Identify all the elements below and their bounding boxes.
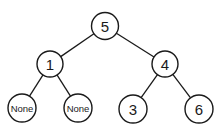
node-6: 6 bbox=[185, 95, 213, 123]
node-none-right: None bbox=[64, 94, 92, 122]
edge-1-none-left bbox=[30, 75, 44, 96]
edge-5-1 bbox=[61, 34, 94, 57]
node-label: 1 bbox=[46, 56, 54, 73]
node-none-left: None bbox=[8, 94, 36, 122]
binary-tree-diagram: 5 1 4 None None 3 6 bbox=[0, 0, 218, 130]
edge-4-6 bbox=[173, 74, 191, 97]
node-4: 4 bbox=[152, 51, 178, 77]
node-root-5: 5 bbox=[92, 13, 119, 40]
edge-4-3 bbox=[141, 75, 157, 98]
node-label: 5 bbox=[101, 18, 109, 35]
edge-1-none-right bbox=[57, 75, 71, 96]
node-1: 1 bbox=[37, 51, 63, 77]
node-label: 3 bbox=[129, 101, 137, 118]
node-label: None bbox=[11, 103, 34, 114]
node-label: 6 bbox=[195, 101, 203, 118]
tree-nodes: 5 1 4 None None 3 6 bbox=[8, 13, 213, 124]
edge-5-4 bbox=[116, 33, 154, 57]
node-3: 3 bbox=[119, 95, 147, 123]
node-label: None bbox=[67, 103, 90, 114]
node-label: 4 bbox=[161, 56, 169, 73]
